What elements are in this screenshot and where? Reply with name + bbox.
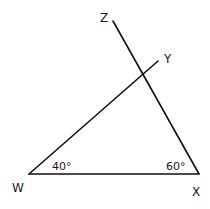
geometry-diagram: Z Y W X 40° 60°: [0, 0, 210, 209]
segment-xz: [113, 21, 199, 174]
segment-wy: [29, 61, 158, 174]
point-label-z: Z: [100, 11, 108, 25]
point-label-w: W: [12, 181, 24, 195]
point-label-y: Y: [163, 52, 172, 66]
angle-label-w: 40°: [52, 160, 72, 173]
angle-label-x: 60°: [166, 160, 186, 173]
point-label-x: X: [192, 185, 200, 199]
